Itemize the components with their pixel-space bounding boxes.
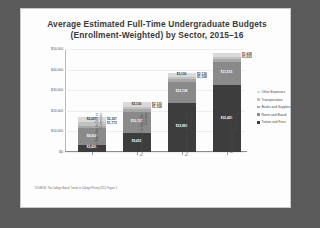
bar-segment-label: $2,130 — [123, 103, 151, 106]
y-axis-tick-label: $50,000 — [33, 47, 63, 51]
legend-swatch-icon — [257, 98, 260, 101]
legend-swatch-icon — [257, 106, 260, 109]
page-title: Average Estimated Full-Time Undergraduat… — [39, 19, 275, 41]
bar-segment-label: $2,130 — [168, 73, 196, 76]
y-axis-tick-label: $20,000 — [33, 109, 63, 113]
legend-item[interactable]: Room and Board — [257, 113, 291, 117]
legend-swatch-icon — [257, 113, 260, 116]
legend-item[interactable]: Tuition and Fees — [257, 120, 291, 124]
legend-label: Tuition and Fees — [261, 120, 285, 124]
legend-label: Other Expenses — [261, 90, 285, 94]
bar-callout-label: $1,108 — [197, 76, 207, 79]
slide-frame: Average Estimated Full-Time Undergraduat… — [20, 8, 291, 208]
bar-segment: $11,516 — [213, 62, 241, 86]
bar-callout-label: $1,773 — [107, 122, 117, 125]
legend-label: Transportation — [261, 98, 282, 102]
chart-title-line-2: (Enrollment-Weighted) by Sector, 2015–16 — [39, 30, 275, 41]
legend-item[interactable]: Books and Supplies — [257, 105, 291, 109]
legend-label: Books and Supplies — [261, 105, 290, 109]
x-axis-category-label: Public Four-Year Out-of-State On-Campus — [185, 113, 193, 157]
legend-swatch-icon — [257, 91, 260, 94]
x-axis-category-label: Public Two-Year In-District Commuter — [95, 113, 103, 157]
chart-legend: Other ExpensesTransportationBooks and Su… — [257, 90, 291, 128]
source-note: SOURCE: The College Board, Trends in Col… — [35, 187, 118, 190]
legend-swatch-icon — [257, 121, 260, 124]
y-axis-tick-label: $40,000 — [33, 68, 63, 72]
bar-segment-label: $10,138 — [168, 91, 196, 94]
x-axis-tick — [137, 152, 138, 155]
y-axis-tick-label: $10,000 — [33, 130, 63, 134]
legend-item[interactable]: Transportation — [257, 98, 291, 102]
x-axis-tick — [227, 152, 228, 155]
legend-label: Room and Board — [261, 113, 286, 117]
chart-title-line-1: Average Estimated Full-Time Undergraduat… — [39, 19, 275, 30]
bar-callout-label: $1,033 — [242, 56, 252, 59]
bar-segment-label: $11,516 — [213, 72, 241, 75]
gridline — [65, 49, 245, 50]
x-axis-tick — [92, 152, 93, 155]
bar-callout-label: $1,108 — [152, 106, 162, 109]
plot-area: $2,207$8,003$3,435$2,207$1,773Public Two… — [65, 49, 245, 152]
legend-item[interactable]: Other Expenses — [257, 90, 291, 94]
x-axis-tick — [182, 152, 183, 155]
bar-segment: $10,138 — [168, 82, 196, 103]
y-axis-tick-label: $0 — [33, 150, 63, 154]
y-axis-tick-labels: $0$10,000$20,000$30,000$40,000$50,000 — [29, 49, 63, 152]
x-axis-category-label: Public Four-Year In-State On-Campus — [140, 113, 148, 157]
y-axis-tick-label: $30,000 — [33, 88, 63, 92]
x-axis-category-label: Private Nonprofit Four-Year On-Campus — [230, 113, 238, 157]
